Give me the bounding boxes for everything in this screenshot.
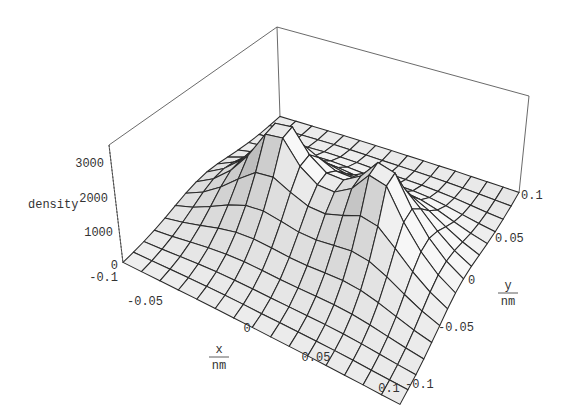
z-tick-2000: 2000 [79, 192, 108, 206]
y-tick-0.1: 0.1 [521, 189, 543, 203]
z-axis: 3000 2000 1000 0 density [28, 145, 123, 273]
x-tick-0: 0 [243, 322, 250, 336]
y-tick-m0.05: -0.05 [438, 321, 474, 335]
x-tick-0.1: 0.1 [378, 382, 400, 396]
y-tick-0: 0 [468, 274, 475, 288]
density-surface-plot: 3000 2000 1000 0 density -0.1 -0.05 0 0.… [0, 0, 569, 414]
x-axis-label-den: nm [212, 359, 226, 373]
y-tick-m0.1: -0.1 [405, 378, 434, 392]
x-tick-m0.05: -0.05 [127, 295, 163, 309]
z-axis-label: density [28, 198, 78, 212]
z-tick-1000: 1000 [84, 226, 113, 240]
x-axis-label-num: x [215, 343, 222, 357]
y-tick-0.05: 0.05 [495, 232, 524, 246]
y-axis-label-num: y [504, 279, 511, 293]
x-tick-0.05: 0.05 [302, 351, 331, 365]
y-axis-label-den: nm [501, 295, 515, 309]
x-tick-m0.1: -0.1 [89, 271, 118, 285]
z-tick-3000: 3000 [75, 157, 104, 171]
